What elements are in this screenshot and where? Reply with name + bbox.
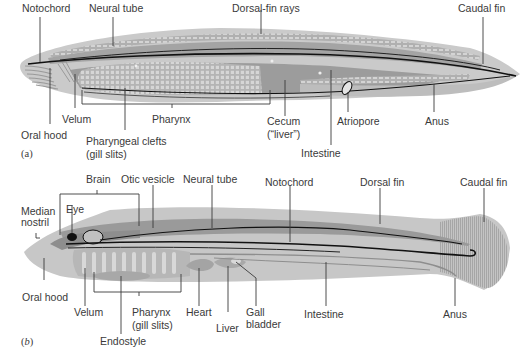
label-pharynx-a: Pharynx xyxy=(152,113,191,125)
label-velum-a: Velum xyxy=(62,113,91,125)
label-intestine-b: Intestine xyxy=(304,308,344,320)
label-neural-tube-b: Neural tube xyxy=(183,173,237,185)
label-bladder-b: bladder xyxy=(246,318,281,330)
label-brain-b: Brain xyxy=(86,173,111,185)
label-gall-b: Gall xyxy=(246,306,265,318)
eye-b xyxy=(67,233,77,241)
label-dorsal-fin-b: Dorsal fin xyxy=(360,176,404,188)
label-caudal-fin-b: Caudal fin xyxy=(460,176,507,188)
label-gill-slits-a: (gill slits) xyxy=(86,148,127,160)
label-neural-tube-a: Neural tube xyxy=(89,2,143,14)
label-cecum-liver-a: (“liver”) xyxy=(267,128,300,140)
label-nostril-b: nostril xyxy=(21,216,49,228)
label-gill-slits-b: (gill slits) xyxy=(132,319,173,331)
pharynx-grid-a xyxy=(78,62,262,95)
endostyle-b xyxy=(94,271,150,281)
panel-label-b: (b) xyxy=(21,336,33,347)
label-pharynx-b: Pharynx xyxy=(132,306,171,318)
label-intestine-a: Intestine xyxy=(301,147,341,159)
label-velum-b: Velum xyxy=(74,306,103,318)
label-caudal-fin-a: Caudal fin xyxy=(458,2,505,14)
label-oral-hood-b: Oral hood xyxy=(22,291,68,303)
panel-label-a: (a) xyxy=(21,148,33,159)
label-notochord-b: Notochord xyxy=(265,176,313,188)
label-heart-b: Heart xyxy=(186,306,212,318)
label-dorsal-fin-rays-a: Dorsal-fin rays xyxy=(232,2,300,14)
label-atriopore-a: Atriopore xyxy=(337,115,380,127)
label-liver-b: Liver xyxy=(216,322,239,334)
label-pharyngeal-clefts-a: Pharyngeal clefts xyxy=(86,135,167,147)
label-eye-b: Eye xyxy=(66,203,84,215)
otic-vesicle-b xyxy=(83,230,103,244)
label-anus-a: Anus xyxy=(425,115,449,127)
label-cecum-a: Cecum xyxy=(267,115,300,127)
label-notochord-a: Notochord xyxy=(22,2,70,14)
label-endostyle-b: Endostyle xyxy=(100,335,146,347)
label-oral-hood-a: Oral hood xyxy=(21,129,67,141)
label-anus-b: Anus xyxy=(443,308,467,320)
label-otic-vesicle-b: Otic vesicle xyxy=(121,173,175,185)
panel-paren-close: ) xyxy=(30,336,34,347)
